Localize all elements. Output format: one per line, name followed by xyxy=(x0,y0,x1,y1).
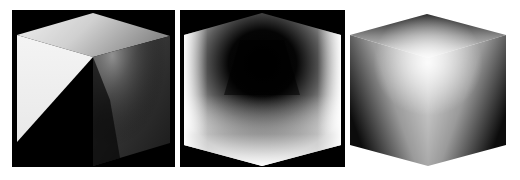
panel-cube-inverted-depth xyxy=(180,10,345,167)
panel-cube-glossy xyxy=(348,10,510,170)
panel-cube-shaded-diagonal xyxy=(12,10,175,167)
cube-rendering-figure xyxy=(0,0,520,180)
cube-glossy-image xyxy=(348,10,510,170)
cube-shaded-diagonal-image xyxy=(12,10,175,167)
cube-inverted-depth-image xyxy=(180,10,345,167)
